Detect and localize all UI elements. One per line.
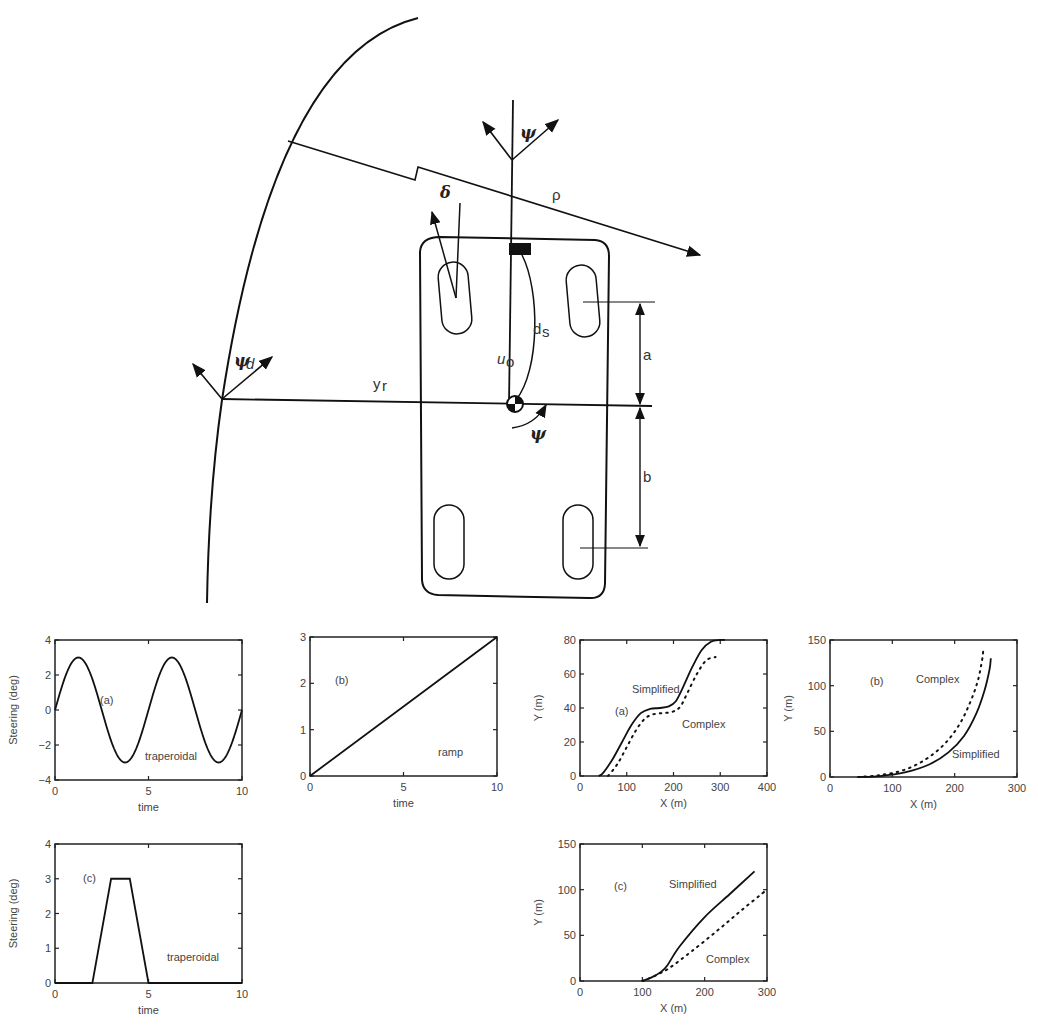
label-d-s: d: [533, 320, 541, 337]
x-tick-label: 100: [633, 986, 651, 998]
y-tick-label: 1: [45, 942, 51, 954]
ds-arc: [516, 255, 535, 400]
x-tick-label: 200: [664, 781, 682, 793]
y-tick-label: 4: [45, 634, 51, 646]
x-tick-label: 0: [52, 988, 58, 1000]
x-tick-label: 200: [695, 986, 713, 998]
label-b: b: [643, 468, 651, 485]
label-psi-top: ψ: [520, 122, 537, 142]
x-tick-label: 5: [145, 988, 151, 1000]
y-tick-label: 0: [45, 704, 51, 716]
center-of-gravity-icon: [507, 396, 523, 412]
y-tick-label: 100: [808, 680, 826, 692]
label-psi-cg: ψ: [530, 423, 547, 443]
plot-frame: [580, 640, 767, 776]
y-tick-label: −4: [38, 774, 51, 786]
series-label: Simplified: [669, 878, 717, 890]
y-tick-label: 60: [564, 668, 576, 680]
label-psi-d-sub: d: [246, 355, 255, 372]
chart-path-c: 0100200300150100500X (m)Y (m)(c)Simplifi…: [532, 838, 776, 1014]
panel-label: (b): [870, 675, 883, 687]
label-a: a: [643, 346, 652, 363]
y-tick-label: 150: [558, 838, 576, 850]
y-tick-label: −2: [38, 739, 51, 751]
wheel-rear-right: [563, 505, 593, 579]
x-tick-label: 0: [827, 782, 833, 794]
y-tick-label: 2: [45, 908, 51, 920]
x-tick-label: 0: [307, 781, 313, 793]
y-tick-label: 20: [564, 736, 576, 748]
lateral-offset-line: [222, 399, 652, 406]
diagram-labels: ψ δ ρ ψ d y r u o d s ψ a b: [234, 122, 652, 485]
x-axis-label: time: [393, 797, 414, 809]
x-tick-label: 0: [577, 781, 583, 793]
wheel-front-right: [565, 264, 601, 338]
x-axis-label: X (m): [660, 1002, 687, 1014]
curve-annotation: traperoidal: [167, 951, 219, 963]
vehicle-diagram: [193, 18, 700, 603]
chart-path-a: 0100200300400806040200X (m)Y (m)(a)Simpl…: [532, 634, 776, 809]
label-y-r-sub: r: [382, 377, 387, 394]
label-delta: δ: [439, 183, 451, 202]
series-steering: [55, 658, 242, 763]
x-tick-label: 200: [945, 782, 963, 794]
chart-steering-a: 0510420−2−4timeSteering (deg)(a)traperoi…: [7, 634, 248, 813]
x-tick-label: 0: [52, 785, 58, 797]
x-tick-label: 300: [758, 986, 776, 998]
x-tick-label: 10: [236, 785, 248, 797]
y-tick-label: 100: [558, 884, 576, 896]
series-complex: [642, 890, 767, 981]
charts-group: 0510420−2−4timeSteering (deg)(a)traperoi…: [7, 631, 1026, 1016]
y-axis-label: Y (m): [782, 695, 794, 722]
x-tick-label: 100: [883, 782, 901, 794]
y-tick-label: 4: [45, 838, 51, 850]
steering-ref-line: [456, 203, 460, 298]
chart-steering-c: 051043210timeSteering (deg)(c)traperoida…: [7, 838, 248, 1016]
y-tick-label: 1: [300, 724, 306, 736]
y-axis-label: Y (m): [532, 695, 544, 722]
label-u-o-sub: o: [506, 353, 514, 370]
x-axis-label: X (m): [660, 797, 687, 809]
vehicle-body: [420, 237, 609, 598]
label-y-r: y: [373, 375, 381, 392]
series-label: Complex: [916, 673, 960, 685]
series-steering: [55, 879, 242, 983]
x-tick-label: 5: [400, 781, 406, 793]
x-axis-label: X (m): [910, 798, 937, 810]
series-steering: [310, 637, 497, 776]
y-tick-label: 150: [808, 634, 826, 646]
y-tick-label: 2: [300, 677, 306, 689]
series-label: Complex: [706, 953, 750, 965]
x-tick-label: 300: [1008, 782, 1026, 794]
panel-label: (a): [615, 705, 628, 717]
y-tick-label: 3: [300, 631, 306, 643]
x-tick-label: 5: [145, 785, 151, 797]
chart-path-b: 0100200300150100500X (m)Y (m)(b)Simplifi…: [782, 634, 1026, 810]
psi-arrow-left: [483, 122, 512, 160]
psi-d-arrow-left: [193, 364, 222, 399]
label-rho: ρ: [552, 186, 561, 203]
series-label: Complex: [682, 718, 726, 730]
curve-annotation: traperoidal: [145, 750, 197, 762]
x-tick-label: 400: [758, 781, 776, 793]
y-tick-label: 80: [564, 634, 576, 646]
x-axis-label: time: [138, 801, 159, 813]
road-curve: [207, 18, 418, 603]
y-tick-label: 40: [564, 702, 576, 714]
label-u-o: u: [497, 350, 506, 367]
y-axis-label: Y (m): [532, 899, 544, 926]
series-label: Simplified: [952, 748, 1000, 760]
wheel-rear-left: [434, 505, 464, 579]
y-tick-label: 50: [564, 929, 576, 941]
sensor-block: [509, 243, 531, 255]
panel-label: (a): [100, 694, 113, 706]
y-tick-label: 0: [570, 975, 576, 987]
vehicle-dynamics-figure: ψ δ ρ ψ d y r u o d s ψ a b 0510420−2−4t…: [0, 0, 1038, 1034]
wheel-front-left: [437, 261, 473, 335]
x-tick-label: 10: [236, 988, 248, 1000]
x-tick-label: 0: [577, 986, 583, 998]
panel-label: (c): [614, 880, 627, 892]
y-tick-label: 2: [45, 669, 51, 681]
delta-arrow: [432, 212, 456, 298]
y-axis-label: Steering (deg): [7, 879, 19, 949]
